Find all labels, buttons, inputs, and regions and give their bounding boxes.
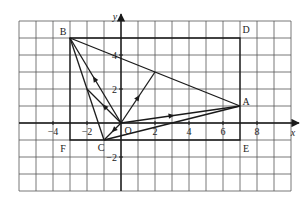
vector-diagram: xy−4−2246842−2ABCDEFO [0, 0, 307, 201]
x-tick-label: 4 [187, 126, 192, 137]
point-label-a: A [242, 96, 250, 107]
x-tick-label: 6 [221, 126, 226, 137]
y-tick-label: 2 [112, 84, 117, 95]
point-label-d: D [242, 24, 249, 35]
vector-arrowhead-icon [134, 95, 139, 101]
x-tick-label: 8 [255, 126, 260, 137]
vector-arrowhead-icon [168, 114, 174, 119]
point-label-o: O [124, 125, 131, 136]
y-tick-label: 4 [112, 50, 117, 61]
x-tick-label: −2 [82, 126, 93, 137]
y-axis-label: y [112, 11, 118, 22]
grid [19, 21, 291, 191]
x-axis-label: x [290, 127, 296, 138]
point-label-c: C [98, 142, 105, 153]
y-tick-label: −2 [106, 152, 117, 163]
x-tick-label: 2 [153, 126, 158, 137]
x-tick-label: −4 [48, 126, 59, 137]
point-label-f: F [60, 143, 66, 154]
point-label-e: E [243, 143, 249, 154]
point-label-b: B [60, 26, 67, 37]
